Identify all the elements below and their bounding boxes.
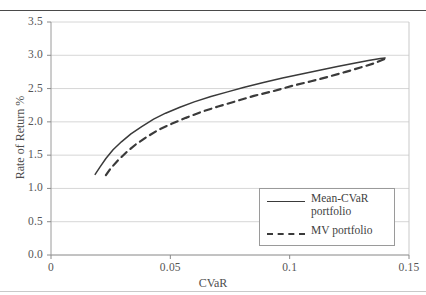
legend-item-mv-portfolio: MV portfolio: [260, 225, 396, 249]
y-tick-label: 0.0: [3, 248, 43, 260]
chart-plot-area: [0, 0, 426, 295]
x-axis-title: CVaR: [0, 276, 426, 291]
x-tick-label: 0.1: [267, 261, 313, 273]
x-tick-marks: [51, 255, 409, 259]
y-tick-label: 3.0: [3, 48, 43, 60]
x-tick-label: 0.05: [147, 261, 193, 273]
legend-label: Mean-CVaR portfolio: [311, 192, 395, 217]
y-axis-title: Rate of Return %: [13, 73, 28, 203]
figure: 0.00.51.01.52.02.53.03.5 00.050.10.15 Ra…: [0, 0, 426, 295]
legend-line-sample-dashed: [267, 233, 305, 235]
y-tick-marks: [47, 22, 51, 255]
chart-legend: Mean-CVaR portfolio MV portfolio: [259, 188, 395, 246]
legend-line-sample-solid: [267, 201, 305, 202]
legend-label: MV portfolio: [311, 224, 395, 237]
x-tick-label: 0.15: [386, 261, 426, 273]
series-line-2: [106, 58, 385, 175]
data-series-group: [95, 58, 385, 175]
series-line-1: [95, 58, 385, 175]
y-tick-label: 0.5: [3, 215, 43, 227]
x-tick-label: 0: [28, 261, 74, 273]
legend-item-mean-cvar-portfolio: Mean-CVaR portfolio: [260, 193, 396, 217]
y-tick-label: 3.5: [3, 15, 43, 27]
